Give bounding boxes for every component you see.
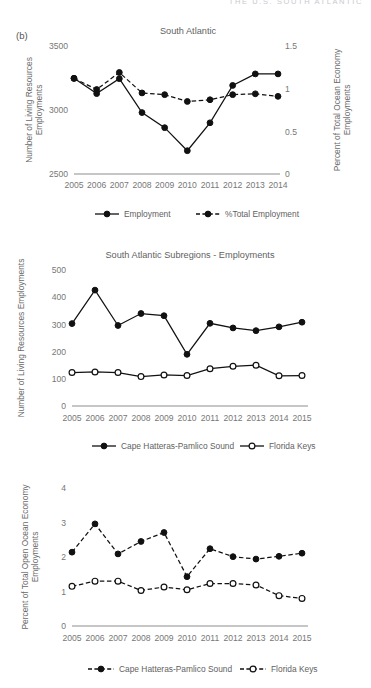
legend-marker <box>250 666 256 672</box>
data-point <box>162 92 168 98</box>
x-tick-label: 2010 <box>177 633 196 643</box>
y-tick-label: 3 <box>61 518 66 528</box>
data-point <box>115 370 121 376</box>
data-point <box>115 551 121 557</box>
data-point <box>252 71 258 77</box>
x-tick-label: 2014 <box>269 633 288 643</box>
x-tick-label: 2015 <box>292 413 311 423</box>
data-point <box>253 362 259 368</box>
data-point <box>207 120 213 126</box>
data-point <box>253 328 259 334</box>
legend-label: Employment <box>124 209 171 219</box>
x-tick-label: 2009 <box>155 180 174 190</box>
data-point <box>276 373 282 379</box>
data-point <box>275 71 281 77</box>
y2-tick-label: 1.5 <box>285 41 297 51</box>
x-tick-label: 2015 <box>292 633 311 643</box>
legend-marker <box>205 211 211 217</box>
data-point <box>207 546 213 552</box>
series-line <box>74 74 278 151</box>
y-tick-label: 300 <box>52 320 67 330</box>
data-point <box>299 550 305 556</box>
y-tick-label: 200 <box>52 347 67 357</box>
legend-label: Cape Hatteras-Pamlico Sound <box>121 441 234 451</box>
data-point <box>276 324 282 330</box>
legend-label: %Total Employment <box>225 209 300 219</box>
y2-tick-label: 1 <box>285 84 290 94</box>
data-point <box>207 366 213 372</box>
y2-tick-label: 0.5 <box>285 127 297 137</box>
x-tick-label: 2009 <box>154 633 173 643</box>
data-point <box>71 76 77 82</box>
data-point <box>299 319 305 325</box>
y-tick-label: 0 <box>61 621 66 631</box>
legend-marker <box>98 666 104 672</box>
data-point <box>276 593 282 599</box>
x-tick-label: 2008 <box>132 180 151 190</box>
series-line <box>72 290 302 354</box>
x-tick-label: 2005 <box>62 413 81 423</box>
data-point <box>276 553 282 559</box>
data-point <box>207 97 213 103</box>
data-point <box>184 574 190 580</box>
x-tick-label: 2013 <box>246 633 265 643</box>
data-point <box>207 320 213 326</box>
data-point <box>230 554 236 560</box>
legend-label: Florida Keys <box>271 664 318 674</box>
data-point <box>161 313 167 319</box>
y-tick-label: 2500 <box>49 169 68 179</box>
data-point <box>230 83 236 89</box>
chart-subregions-percent: 0123420052006200720082009201020112012201… <box>0 466 371 688</box>
data-point <box>253 582 259 588</box>
data-point <box>184 373 190 379</box>
data-point <box>92 521 98 527</box>
data-point <box>92 287 98 293</box>
figure-page: THE U.S. SOUTH ATLANTIC (b) South Atlant… <box>0 0 371 688</box>
x-tick-label: 2011 <box>201 413 220 423</box>
data-point <box>230 363 236 369</box>
y2-axis-label: Percent of Total Ocean EconomyEmployment… <box>332 48 352 171</box>
data-point <box>116 76 122 82</box>
legend-marker <box>249 443 255 449</box>
x-tick-label: 2010 <box>177 413 196 423</box>
data-point <box>253 556 259 562</box>
x-tick-label: 2009 <box>154 413 173 423</box>
y-axis-label: Number of Living ResourcesEmployments <box>24 57 44 163</box>
data-point <box>115 578 121 584</box>
series-line <box>74 72 278 101</box>
x-tick-label: 2011 <box>201 633 220 643</box>
x-tick-label: 2012 <box>223 180 242 190</box>
data-point <box>116 70 122 76</box>
data-point <box>230 92 236 98</box>
data-point <box>138 374 144 380</box>
y-tick-label: 1 <box>61 587 66 597</box>
data-point <box>69 583 75 589</box>
data-point <box>184 99 190 105</box>
x-tick-label: 2011 <box>201 180 220 190</box>
legend-marker <box>101 443 107 449</box>
x-tick-label: 2008 <box>131 413 150 423</box>
data-point <box>207 581 213 587</box>
y2-tick-label: 0 <box>285 169 290 179</box>
data-point <box>94 87 100 93</box>
data-point <box>230 325 236 331</box>
running-head: THE U.S. SOUTH ATLANTIC <box>229 0 363 6</box>
chart-title: South Atlantic Subregions - Employments <box>105 250 274 260</box>
y-tick-label: 3000 <box>49 105 68 115</box>
data-point <box>138 311 144 317</box>
chart-subregions-employments: South Atlantic Subregions - Employments0… <box>0 246 371 466</box>
legend-marker <box>104 211 110 217</box>
data-point <box>299 596 305 602</box>
data-point <box>69 549 75 555</box>
data-point <box>184 351 190 357</box>
data-point <box>184 148 190 154</box>
x-tick-label: 2008 <box>131 633 150 643</box>
data-point <box>92 369 98 375</box>
x-tick-label: 2013 <box>246 180 265 190</box>
data-point <box>92 578 98 584</box>
data-point <box>184 587 190 593</box>
legend-label: Florida Keys <box>269 441 316 451</box>
y-tick-label: 400 <box>52 292 67 302</box>
x-tick-label: 2014 <box>268 180 287 190</box>
data-point <box>139 110 145 116</box>
